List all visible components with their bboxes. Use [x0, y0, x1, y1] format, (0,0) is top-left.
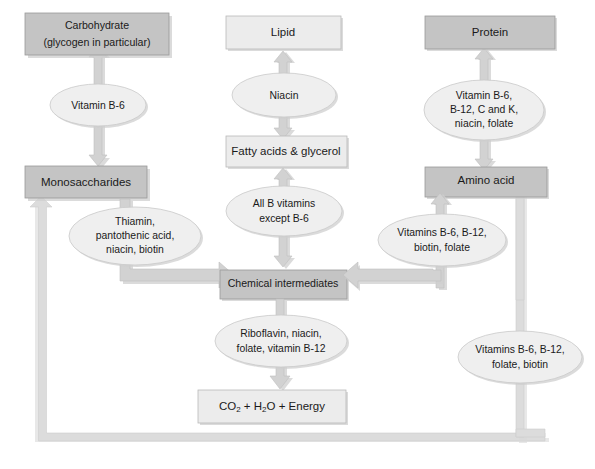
- ellipse-protein-vitamins-line2: B-12, C and K,: [450, 104, 518, 115]
- box-carbohydrate-line2: (glycogen in particular): [43, 36, 150, 48]
- ellipse-protein-vitamins-line1: Vitamin B-6,: [456, 90, 512, 101]
- flow-diagram-canvas: Vitamin B-6 Carbohydrate (glycogen in pa…: [0, 0, 595, 469]
- box-energy-products-label: CO2 + H2O + Energy: [219, 400, 325, 414]
- ellipse-thiamin-line1: Thiamin,: [115, 216, 155, 227]
- box-carbohydrate: Carbohydrate (glycogen in particular): [25, 13, 172, 58]
- ellipse-return-vitamins-line1: Vitamins B-6, B-12,: [475, 344, 564, 355]
- ellipse-riboflavin-line2: folate, vitamin B-12: [237, 343, 326, 354]
- box-monosaccharides-label: Monosaccharides: [41, 176, 131, 188]
- box-chemical-intermediates-label: Chemical intermediates: [228, 277, 339, 289]
- ellipse-niacin: Niacin: [232, 73, 338, 119]
- right-lower-connector: [516, 193, 524, 300]
- energy-co2-text: CO: [219, 400, 236, 412]
- ellipse-niacin-label: Niacin: [270, 90, 299, 101]
- ellipse-thiamin-group: Thiamin, pantothenic acid, niacin, bioti…: [69, 207, 203, 267]
- energy-tail-text: O + Energy: [267, 400, 326, 412]
- box-carbohydrate-line1: Carbohydrate: [65, 19, 129, 31]
- ellipse-all-b-vitamins-line2: except B-6: [259, 213, 309, 224]
- box-lipid-label: Lipid: [271, 26, 295, 38]
- ellipse-amino-vitamins: Vitamins B-6, B-12, biotin, folate: [378, 214, 508, 268]
- box-fatty-acids: Fatty acids & glycerol: [226, 136, 349, 169]
- energy-plus-h: + H: [241, 400, 262, 412]
- ellipse-vitamin-b6-label: Vitamin B-6: [71, 100, 125, 111]
- ellipse-protein-vitamins-line3: niacin, folate: [455, 118, 514, 129]
- box-monosaccharides: Monosaccharides: [25, 166, 150, 201]
- box-amino-acid: Amino acid: [425, 167, 549, 199]
- ellipse-riboflavin-group: Riboflavin, niacin, folate, vitamin B-12: [215, 315, 349, 369]
- box-fatty-acids-label: Fatty acids & glycerol: [231, 145, 340, 157]
- ellipse-return-vitamins-line2: folate, biotin: [492, 359, 548, 370]
- ellipse-riboflavin-line1: Riboflavin, niacin,: [240, 328, 321, 339]
- box-protein-label: Protein: [472, 26, 508, 38]
- box-protein: Protein: [425, 16, 557, 51]
- ellipse-thiamin-line3: niacin, biotin: [106, 244, 164, 255]
- ellipse-all-b-vitamins: All B vitamins except B-6: [226, 186, 344, 238]
- box-energy-products: CO2 + H2O + Energy: [198, 390, 348, 425]
- ellipse-thiamin-line2: pantothenic acid,: [96, 230, 175, 241]
- box-lipid: Lipid: [226, 16, 343, 51]
- ellipse-vitamin-b6: Vitamin B-6: [50, 84, 148, 128]
- box-chemical-intermediates: Chemical intermediates: [220, 270, 349, 301]
- ellipse-protein-vitamins: Vitamin B-6, B-12, C and K, niacin, fola…: [424, 80, 546, 142]
- ellipse-return-vitamins: Vitamins B-6, B-12, folate, biotin: [458, 331, 584, 385]
- ellipse-amino-vitamins-line1: Vitamins B-6, B-12,: [397, 227, 486, 238]
- metabolism-flow-diagram: Vitamin B-6 Carbohydrate (glycogen in pa…: [0, 0, 595, 469]
- box-amino-acid-label: Amino acid: [458, 174, 515, 186]
- ellipse-amino-vitamins-line2: biotin, folate: [414, 242, 470, 253]
- ellipse-all-b-vitamins-line1: All B vitamins: [253, 198, 315, 209]
